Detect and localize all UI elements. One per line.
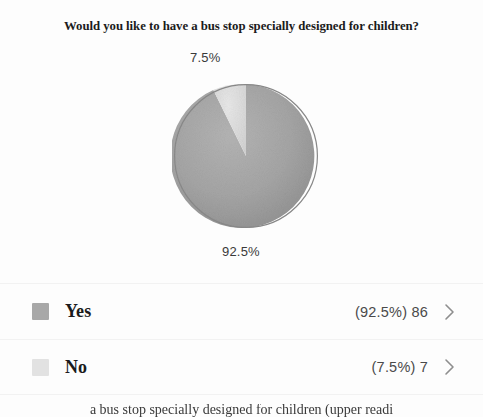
clipped-caption: a bus stop specially designed for childr…	[0, 404, 483, 417]
page-title: Would you like to have a bus stop specia…	[0, 19, 483, 34]
legend-list: Yes (92.5%) 86 No (7.5%) 7	[0, 283, 483, 395]
chevron-right-icon[interactable]	[444, 358, 455, 376]
legend-value-yes: (92.5%) 86	[355, 304, 428, 320]
pie-chart-figure: 7.5%	[0, 46, 483, 271]
pie-slice-label-yes: 92.5%	[222, 244, 260, 259]
survey-result-card: Would you like to have a bus stop specia…	[0, 0, 483, 417]
pie-chart-graphic	[172, 82, 320, 230]
pie-svg	[172, 82, 320, 230]
legend-row-yes[interactable]: Yes (92.5%) 86	[0, 283, 483, 339]
pie-slice-label-no: 7.5%	[190, 50, 220, 65]
legend-label-no: No	[65, 357, 87, 378]
legend-swatch-no	[32, 359, 49, 376]
legend-value-no: (7.5%) 7	[372, 359, 428, 375]
legend-swatch-yes	[32, 303, 49, 320]
legend-row-no[interactable]: No (7.5%) 7	[0, 339, 483, 395]
chevron-right-icon[interactable]	[444, 303, 455, 321]
clipped-caption-text: a bus stop specially designed for childr…	[90, 404, 393, 417]
legend-label-yes: Yes	[65, 301, 91, 322]
